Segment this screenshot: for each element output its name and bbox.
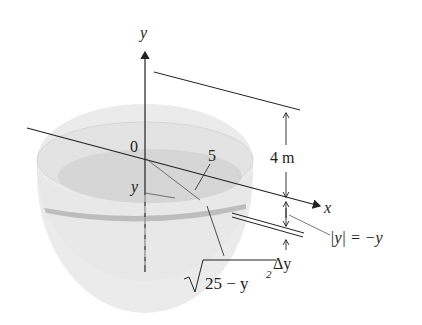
- origin-label: 0: [130, 138, 138, 155]
- delta-y-label: Δy: [273, 255, 291, 273]
- hemisphere-tank-diagram: y x 0 5 y 4 m |y| = −y Δy 25 − y 2: [0, 0, 422, 325]
- abs-y-leader: [289, 215, 330, 235]
- slice-radius-label: 25 − y: [205, 274, 249, 293]
- y-level-label: y: [129, 178, 139, 196]
- abs-y-label: |y| = −y: [330, 229, 383, 247]
- depth-dimension: 4 m: [270, 113, 295, 197]
- y-axis-label: y: [138, 24, 148, 42]
- slice-radius-exponent: 2: [266, 268, 272, 280]
- delta-y-dimension: Δy: [273, 240, 291, 273]
- ground-reference-line: [154, 72, 300, 110]
- abs-y-dimension: |y| = −y: [286, 202, 383, 247]
- radius-label: 5: [208, 147, 216, 164]
- x-axis-label: x: [323, 199, 331, 216]
- depth-label: 4 m: [270, 149, 295, 166]
